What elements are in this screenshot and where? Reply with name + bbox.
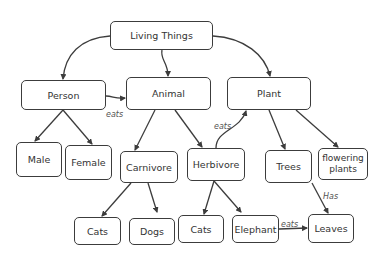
edge-living-animal: [162, 50, 168, 76]
edge-label: Has: [323, 192, 338, 201]
edge-herbivore-elephant: [214, 181, 241, 212]
edge-label: eats: [281, 220, 298, 229]
node-leaves: Leaves: [308, 214, 354, 243]
edge-plant-flowering: [296, 110, 338, 147]
edge-animal-carnivore: [135, 110, 155, 150]
edge-herbivore-cats: [204, 181, 214, 214]
node-living: Living Things: [110, 21, 213, 50]
node-female: Female: [65, 145, 112, 180]
node-male: Male: [16, 142, 62, 177]
edge-carnivore-dogs: [148, 183, 157, 212]
node-herbivore: Herbivore: [187, 148, 245, 181]
node-plant: Plant: [227, 77, 311, 110]
node-elephant: Elephant: [232, 215, 279, 243]
node-person: Person: [21, 80, 106, 110]
edge-carnivore-cats: [102, 183, 131, 216]
node-animal: Animal: [126, 77, 211, 110]
edge-plant-trees: [269, 110, 285, 149]
edge-person-animal: [106, 96, 125, 98]
edge-label: eats: [106, 110, 123, 119]
node-trees: Trees: [265, 150, 312, 183]
node-cats2: Cats: [178, 215, 224, 243]
concept-map: Living ThingsPersonAnimalPlantMaleFemale…: [0, 0, 380, 258]
edge-person-female: [63, 110, 92, 144]
edge-label: eats: [214, 122, 231, 131]
node-flowering: flowering plants: [318, 148, 368, 180]
node-dogs: Dogs: [129, 218, 175, 245]
node-cats1: Cats: [74, 217, 121, 245]
edge-person-male: [35, 110, 63, 141]
edge-animal-herbivore: [175, 110, 202, 147]
edge-living-plant: [213, 36, 270, 76]
edge-living-person: [63, 36, 110, 79]
node-carnivore: Carnivore: [120, 151, 178, 183]
